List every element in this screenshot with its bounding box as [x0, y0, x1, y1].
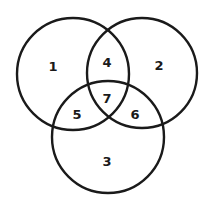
region-label-3: 3 [102, 154, 111, 169]
region-label-2: 2 [154, 58, 163, 73]
region-label-5: 5 [72, 107, 81, 122]
region-label-4: 4 [102, 55, 111, 70]
venn-diagram: 1 2 3 4 5 6 7 [0, 0, 209, 206]
region-label-1: 1 [48, 59, 57, 74]
region-label-7: 7 [102, 91, 111, 106]
circle-b [87, 18, 197, 128]
region-label-6: 6 [130, 107, 139, 122]
